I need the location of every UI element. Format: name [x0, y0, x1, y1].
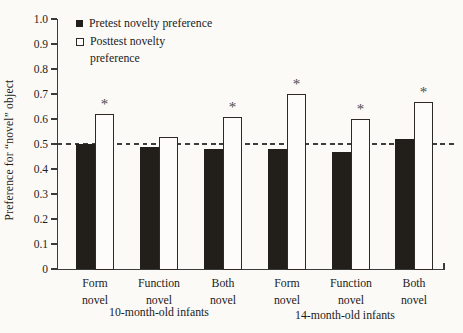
legend-label-line: Posttest novelty: [90, 34, 165, 48]
y-tick-label: 0.7: [20, 87, 48, 102]
age-group-label: 14-month-old infants: [295, 308, 395, 323]
bar-chart-figure: Preference for “novel” object 1.00.90.80…: [0, 0, 463, 333]
category-label: Formnovel: [252, 275, 322, 308]
posttest-bar: [159, 137, 178, 271]
legend-label-posttest: Posttest novelty preference: [90, 33, 165, 68]
posttest-bar: [287, 94, 306, 270]
significance-asterisk: *: [414, 85, 433, 99]
y-axis-title: Preference for “novel” object: [3, 80, 15, 221]
posttest-bar: [351, 119, 370, 270]
pretest-bar: [395, 139, 414, 269]
category-label: Bothnovel: [379, 275, 449, 308]
y-tick: [51, 243, 57, 244]
y-tick: [51, 93, 57, 94]
significance-asterisk: *: [287, 77, 306, 91]
significance-asterisk: *: [351, 102, 370, 116]
posttest-bar: [223, 117, 242, 271]
y-tick-label: 0.2: [20, 212, 48, 227]
x-axis-line: [57, 269, 445, 270]
legend-label-pretest: Pretest novelty preference: [89, 15, 212, 33]
y-tick: [51, 218, 57, 219]
y-tick-label: 0.3: [20, 187, 48, 202]
y-tick-label: 0: [20, 262, 48, 277]
category-label: Functionnovel: [316, 275, 386, 308]
category-label: Functionnovel: [124, 275, 194, 308]
y-tick: [51, 168, 57, 169]
y-tick-label: 0.8: [20, 62, 48, 77]
legend-item-pretest: Pretest novelty preference: [76, 15, 212, 33]
category-label: Formnovel: [60, 275, 130, 308]
age-group-label: 10-month-old infants: [109, 305, 209, 320]
y-tick: [51, 68, 57, 69]
significance-asterisk: *: [95, 97, 114, 111]
x-axis-end-tick: [443, 263, 444, 270]
pretest-bar: [140, 147, 159, 270]
y-tick: [51, 268, 57, 269]
y-tick-label: 0.4: [20, 162, 48, 177]
posttest-bar: [95, 114, 114, 270]
y-tick: [51, 43, 57, 44]
legend-label-line: preference: [90, 51, 140, 65]
pretest-bar: [204, 149, 223, 269]
y-tick-label: 1.0: [20, 12, 48, 27]
y-tick: [51, 18, 57, 19]
y-tick-label: 0.9: [20, 37, 48, 52]
significance-asterisk: *: [223, 100, 242, 114]
filled-square-icon: [76, 20, 83, 27]
y-tick-label: 0.5: [20, 137, 48, 152]
legend: Pretest novelty preference Posttest nove…: [76, 15, 212, 68]
y-tick-label: 0.1: [20, 237, 48, 252]
pretest-bar: [76, 144, 95, 269]
category-label: Bothnovel: [188, 275, 258, 308]
y-tick-label: 0.6: [20, 112, 48, 127]
pretest-bar: [332, 152, 351, 270]
legend-item-posttest: Posttest novelty preference: [76, 33, 212, 68]
pretest-bar: [268, 149, 287, 269]
posttest-bar: [414, 102, 433, 271]
y-tick: [51, 193, 57, 194]
y-tick: [51, 118, 57, 119]
y-tick: [51, 143, 57, 144]
open-square-icon: [76, 38, 84, 46]
